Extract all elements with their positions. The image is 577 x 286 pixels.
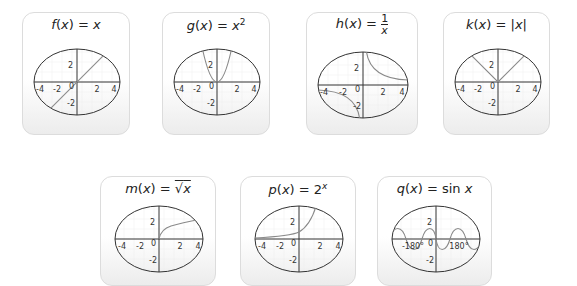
svg-text:-2: -2	[193, 85, 201, 94]
card-f: f(x) = x -4 -2 0 2 4 2 -2	[22, 12, 130, 135]
graph-k: -4 -2 0 2 4 2 -2	[444, 37, 551, 127]
function-title-g: g(x) = x2	[163, 17, 269, 33]
svg-text:-2: -2	[488, 99, 496, 108]
svg-text:180°: 180°	[449, 242, 468, 251]
svg-text:4: 4	[399, 88, 404, 97]
svg-text:-2: -2	[353, 102, 361, 111]
svg-text:-2: -2	[67, 99, 75, 108]
svg-text:2: 2	[177, 242, 182, 251]
svg-text:2: 2	[427, 218, 432, 227]
svg-text:4: 4	[195, 242, 200, 251]
svg-text:2: 2	[234, 85, 239, 94]
svg-text:2: 2	[515, 85, 520, 94]
card-g: g(x) = x2 -4 -2 0 2 4 2 -2	[162, 12, 270, 135]
svg-text:-2: -2	[53, 85, 61, 94]
svg-text:0: 0	[428, 239, 433, 248]
svg-text:-4: -4	[176, 85, 184, 94]
function-title-k: k(x) = |x|	[444, 17, 549, 32]
svg-text:-180°: -180°	[402, 242, 424, 251]
svg-text:4: 4	[335, 242, 340, 251]
graph-f: -4 -2 0 2 4 2 -2	[23, 37, 131, 127]
svg-text:2: 2	[150, 218, 155, 227]
graph-q: -180° 0 180° 2 -2	[378, 195, 493, 285]
card-h: h(x) = 1x -4 -2 0 2 4 2 -2	[306, 12, 418, 135]
svg-text:4: 4	[251, 85, 256, 94]
svg-text:-2: -2	[136, 242, 144, 251]
svg-text:4: 4	[111, 85, 116, 94]
card-p: p(x) = 2x -4 -2 0 2 4 2 -2	[240, 176, 356, 286]
svg-text:-4: -4	[36, 85, 44, 94]
svg-text:2: 2	[290, 218, 295, 227]
svg-text:0: 0	[490, 82, 495, 91]
svg-text:0: 0	[355, 85, 360, 94]
svg-text:2: 2	[489, 61, 494, 70]
card-m: m(x) = √x -4 -2 0 2 4 2 -2	[100, 176, 216, 286]
svg-text:2: 2	[208, 61, 213, 70]
svg-text:0: 0	[151, 239, 156, 248]
graph-h: -4 -2 0 2 4 2 -2	[307, 43, 419, 133]
svg-text:-2: -2	[149, 256, 157, 265]
graph-m: -4 -2 0 2 4 2 -2	[101, 195, 217, 285]
svg-text:2: 2	[94, 85, 99, 94]
svg-text:-4: -4	[258, 242, 266, 251]
svg-text:2: 2	[380, 88, 385, 97]
svg-text:-2: -2	[474, 85, 482, 94]
function-title-m: m(x) = √x	[101, 181, 215, 196]
function-title-f: f(x) = x	[23, 17, 129, 32]
svg-text:-4: -4	[457, 85, 465, 94]
svg-text:2: 2	[317, 242, 322, 251]
svg-text:-2: -2	[207, 99, 215, 108]
svg-text:-2: -2	[339, 88, 347, 97]
graph-g: -4 -2 0 2 4 2 -2	[163, 37, 271, 127]
function-title-h: h(x) = 1x	[307, 13, 417, 36]
svg-text:0: 0	[291, 239, 296, 248]
svg-text:2: 2	[354, 64, 359, 73]
card-q: q(x) = sin x -180° 0 180° 2 -2	[377, 176, 492, 286]
svg-text:0: 0	[209, 82, 214, 91]
svg-text:0: 0	[69, 82, 74, 91]
svg-text:-2: -2	[276, 242, 284, 251]
card-k: k(x) = |x| -4 -2 0 2 4 2 -2	[443, 12, 550, 135]
svg-text:-2: -2	[289, 256, 297, 265]
function-title-q: q(x) = sin x	[378, 181, 491, 196]
svg-text:-4: -4	[118, 242, 126, 251]
svg-text:-4: -4	[320, 88, 328, 97]
svg-text:4: 4	[532, 85, 537, 94]
svg-text:-2: -2	[426, 256, 434, 265]
graph-p: -4 -2 0 2 4 2 -2	[241, 195, 357, 285]
svg-text:2: 2	[68, 61, 73, 70]
